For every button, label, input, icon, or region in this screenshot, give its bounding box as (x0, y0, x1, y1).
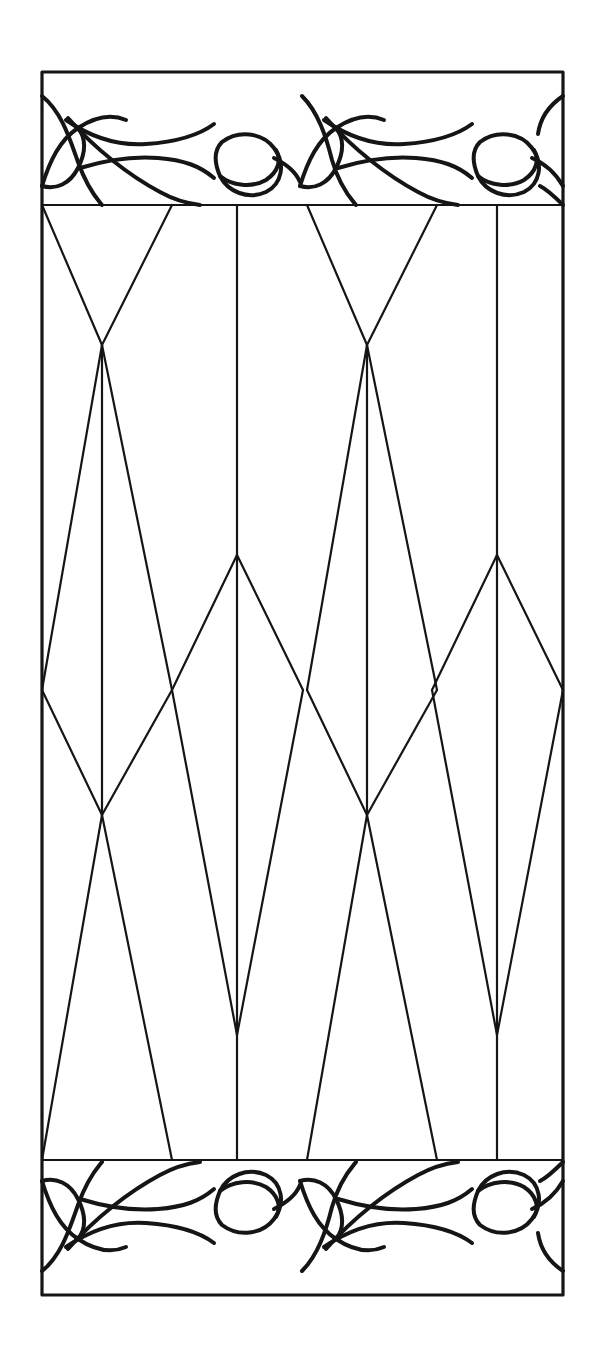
page-canvas (0, 0, 602, 1363)
stained-glass-pattern-illustration (0, 0, 602, 1363)
